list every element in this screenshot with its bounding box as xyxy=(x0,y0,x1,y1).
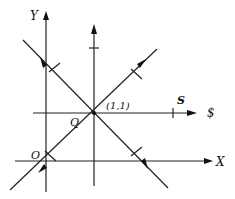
point-q-label: Q xyxy=(70,116,79,129)
origin-label: O xyxy=(31,149,40,162)
point-coordinate-label: (1,1) xyxy=(106,100,130,111)
diagonal-descending-arrow-lower-icon xyxy=(141,158,148,169)
diagonal-ascending-tick-upper xyxy=(131,69,142,79)
horizontal-line-arrowhead-icon xyxy=(187,110,197,116)
vertical-line-arrowhead-icon xyxy=(91,24,97,34)
s-line-label: S xyxy=(177,94,185,107)
y-axis-label: Y xyxy=(30,9,39,23)
diagonal-ascending xyxy=(10,49,157,190)
x-axis-arrowhead-icon xyxy=(204,158,213,164)
x-axis-label: X xyxy=(215,155,225,169)
y-axis-arrowhead-icon xyxy=(43,11,49,20)
diagonal-ascending-tick-lower xyxy=(45,151,56,161)
point-q-dot xyxy=(92,111,96,115)
s-axis-label: $ xyxy=(207,106,215,120)
diagram-canvas: Y X O Q (1,1) S $ xyxy=(0,0,235,199)
